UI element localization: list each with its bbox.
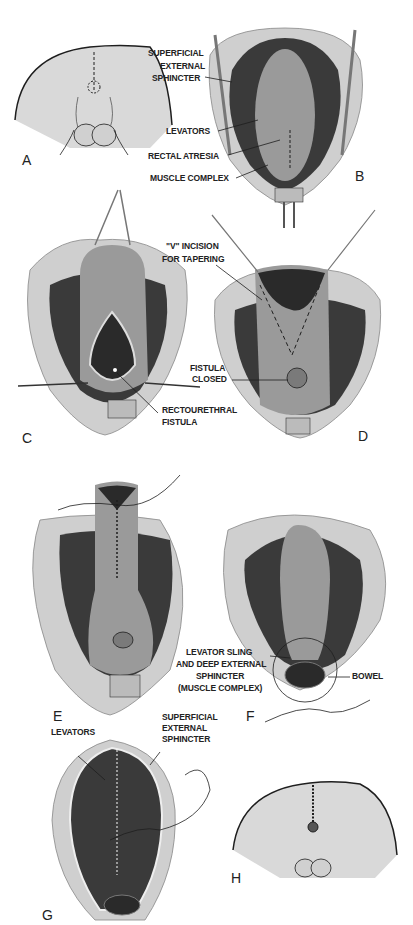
panel-letter-h: H [231,870,241,886]
panel-d: "V" INCISION FOR TAPERING FISTULA CLOSED… [200,190,413,450]
label-superficial: SUPERFICIAL [148,48,204,59]
panel-f: LEVATOR SLING AND DEEP EXTERNAL SPHINCTE… [210,490,413,730]
neo-anus [308,822,318,832]
label-external: EXTERNAL [162,723,207,734]
label-levators: LEVATORS [51,727,95,738]
label-deep-external: AND DEEP EXTERNAL [176,659,266,670]
panel-letter-c: C [22,430,32,446]
label-superficial: SUPERFICIAL [162,712,218,723]
label-for-tapering: FOR TAPERING [162,254,224,265]
pull-through-illustration-f [210,490,413,730]
panel-letter-g: G [42,907,53,923]
bowel [280,525,330,660]
label-sphincter: SPHINCTER [196,671,244,682]
label-external: EXTERNAL [160,61,205,72]
label-muscle-complex: MUSCLE COMPLEX [150,173,229,184]
label-closed: CLOSED [192,374,227,385]
panel-h: H [225,760,413,900]
label-fistula: FISTULA [190,363,225,374]
label-levators: LEVATORS [166,126,210,137]
panel-c: RECTOURETHRAL FISTULA C [0,190,210,440]
label-sphincter: SPHINCTER [162,734,210,745]
panel-letter-d: D [358,428,368,444]
panel-g: LEVATORS SUPERFICIAL EXTERNAL SPHINCTER … [0,730,230,925]
tapering-illustration-d [200,190,413,450]
perineum-repaired-illustration-h [225,760,413,900]
label-sphincter: SPHINCTER [152,73,200,84]
rectal-pouch [255,49,315,181]
label-bowel: BOWEL [352,671,383,682]
fistula-illustration-c [0,190,210,440]
fistula-closed-site [287,368,307,388]
label-muscle-complex: (MUSCLE COMPLEX) [178,683,262,694]
panel-letter-e: E [53,708,62,724]
label-rectal-atresia: RECTAL ATRESIA [148,151,219,162]
label-v-incision: "V" INCISION [166,241,219,252]
panel-letter-b: B [355,168,364,184]
panel-letter-f: F [246,708,255,724]
closure-illustration-g [0,730,230,925]
label-fistula: FISTULA [162,417,197,428]
label-levator-sling: LEVATOR SLING [186,647,252,658]
